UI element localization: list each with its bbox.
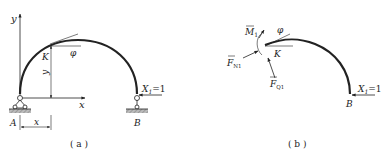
height-label: y bbox=[40, 69, 50, 76]
panel-b: φ K M1 FN1 FQ1 X1=1 B ( b ) bbox=[226, 25, 382, 149]
load-x1-label: X1=1 bbox=[141, 84, 166, 95]
y-axis-label: y bbox=[10, 13, 17, 24]
support-b-label-b: B bbox=[345, 99, 353, 109]
angle-phi-label-b: φ bbox=[277, 25, 284, 35]
load-x1-label-b: X1=1 bbox=[357, 84, 382, 95]
support-b bbox=[126, 96, 148, 114]
moment-arrow bbox=[259, 30, 264, 38]
moment-label: M1 bbox=[244, 27, 258, 38]
shear-force-arrow bbox=[268, 58, 275, 78]
panel-a: y x φ K y A x bbox=[9, 13, 166, 149]
x-axis-label: x bbox=[79, 99, 85, 110]
normal-force-arrow bbox=[243, 51, 258, 58]
shear-force-label: FQ1 bbox=[269, 79, 284, 90]
caption-a: ( a ) bbox=[70, 139, 88, 149]
support-b-label: B bbox=[133, 118, 141, 128]
arch-diagram: y x φ K y A x bbox=[0, 0, 384, 161]
caption-b: ( b ) bbox=[288, 139, 307, 149]
arch-curve bbox=[20, 40, 137, 94]
support-a-label: A bbox=[9, 118, 17, 128]
normal-force-label: FN1 bbox=[226, 58, 242, 69]
angle-phi-label: φ bbox=[70, 48, 77, 58]
dim-x-label: x bbox=[34, 117, 39, 127]
point-k-label-b: K bbox=[273, 49, 282, 59]
point-k-label: K bbox=[41, 52, 50, 62]
